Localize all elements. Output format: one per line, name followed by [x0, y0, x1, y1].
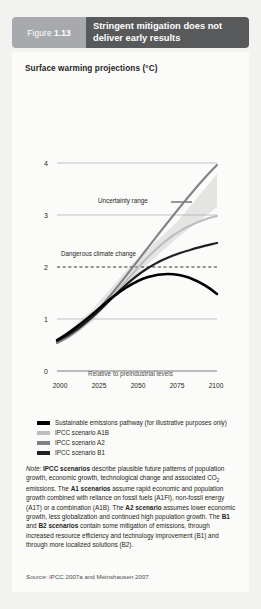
legend-item-label: Sustainable emissions pathway (for illus…	[55, 419, 227, 426]
xtick-label-2000: 2000	[53, 382, 68, 389]
legend-item: IPCC scenario B1	[37, 448, 242, 458]
legend-swatch-icon	[37, 431, 50, 435]
figure-number-value: 1.13	[54, 28, 71, 38]
figure-prefix-label: Figure	[27, 28, 52, 38]
ytick-label-4: 4	[44, 160, 48, 167]
series-line-ipcc-b1	[57, 243, 217, 341]
legend-swatch-icon	[37, 441, 50, 445]
source-text: IPCC 2007a and Meinshausen 2007.	[47, 573, 150, 580]
chart-svg: 4 3 2 1 0 2000 2025 2050 2075 2100	[12, 82, 249, 412]
note-label: Note:	[26, 465, 41, 472]
legend-swatch-icon	[37, 421, 50, 425]
series-line-sustainable-pathway	[57, 274, 217, 340]
figure-body: Surface warming projections (°C)	[12, 52, 249, 592]
chart-plot-area: 4 3 2 1 0 2000 2025 2050 2075 2100 Uncer…	[12, 82, 249, 412]
legend-item-label: IPCC scenario A1B	[55, 429, 109, 436]
figure-number-badge: Figure 1.13	[12, 17, 86, 48]
figure-source: Source: IPCC 2007a and Meinshausen 2007.	[26, 573, 237, 580]
chart-legend: Sustainable emissions pathway (for illus…	[37, 418, 242, 458]
ytick-label-3: 3	[44, 212, 48, 219]
note-text: IPCC scenarios describe plausible future…	[26, 465, 235, 548]
ytick-label-1: 1	[44, 316, 48, 323]
legend-item: Sustainable emissions pathway (for illus…	[37, 418, 242, 428]
xtick-label-2050: 2050	[131, 382, 146, 389]
legend-item-label: IPCC scenario B1	[55, 449, 105, 456]
legend-item-label: IPCC scenario A2	[55, 439, 105, 446]
legend-item: IPCC scenario A1B	[37, 428, 242, 438]
xtick-label-2025: 2025	[92, 382, 107, 389]
ytick-label-2: 2	[44, 264, 48, 271]
x-axis-caption: Relative to preindustrial levels	[12, 370, 249, 377]
figure-title: Stringent mitigation does not deliver ea…	[86, 17, 249, 48]
xtick-label-2075: 2075	[170, 382, 185, 389]
legend-swatch-icon	[37, 451, 50, 455]
source-label: Source:	[26, 573, 47, 580]
chart-title: Surface warming projections (°C)	[25, 64, 158, 73]
legend-item: IPCC scenario A2	[37, 438, 242, 448]
xtick-label-2100: 2100	[209, 382, 224, 389]
uncertainty-range-annotation: Uncertainty range	[98, 197, 148, 204]
figure-header: Figure 1.13 Stringent mitigation does no…	[12, 17, 249, 48]
figure-page: Figure 1.13 Stringent mitigation does no…	[0, 0, 261, 609]
dangerous-climate-change-annotation: Dangerous climate change	[61, 250, 136, 257]
figure-note: Note: IPCC scenarios describe plausible …	[26, 464, 237, 550]
